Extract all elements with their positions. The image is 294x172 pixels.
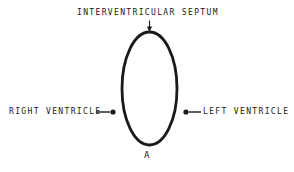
left-ventricle-leader: [183, 109, 201, 114]
panel-label: A: [144, 150, 149, 160]
heart-cross-section-figure: [0, 0, 294, 172]
right-ventricle-dot-icon: [110, 109, 115, 114]
label-right-ventricle: RIGHT VENTRICLE: [9, 107, 102, 117]
ventricular-cross-section-ellipse: [122, 32, 177, 145]
label-interventricular-septum: INTERVENTRICULAR SEPTUM: [77, 8, 219, 18]
left-ventricle-dot-icon: [183, 109, 188, 114]
diagram-canvas: INTERVENTRICULAR SEPTUM RIGHT VENTRICLE …: [0, 0, 294, 172]
septum-arrow-icon: [147, 21, 152, 33]
label-left-ventricle: LEFT VENTRICLE: [203, 107, 289, 117]
